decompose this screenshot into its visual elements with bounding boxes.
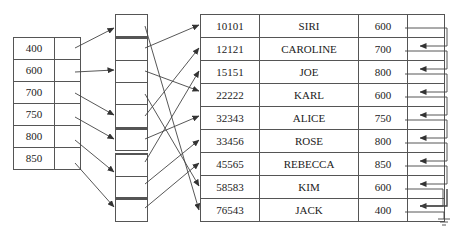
arrow — [145, 140, 199, 184]
index-row: 700 — [14, 82, 81, 104]
record-pointer-cell — [408, 153, 445, 176]
record-id: 33456 — [201, 130, 260, 153]
bucket-block — [115, 14, 148, 37]
record-name: ALICE — [260, 107, 359, 130]
salary-index-table: 400 600 700 750 800 850 — [13, 37, 81, 170]
record-id: 32343 — [201, 107, 260, 130]
bucket-block — [115, 128, 148, 151]
index-value: 800 — [14, 126, 55, 148]
bucket-cell — [116, 61, 147, 83]
record-pointer-cell — [408, 107, 445, 130]
index-pointer-cell — [55, 148, 81, 170]
record-name: KARL — [260, 84, 359, 107]
record-row: 15151JOE800 — [201, 61, 445, 84]
index-value: 750 — [14, 104, 55, 126]
record-name: JOE — [260, 61, 359, 84]
record-id: 22222 — [201, 84, 260, 107]
record-row: 33456ROSE800 — [201, 130, 445, 153]
record-salary: 400 — [359, 199, 408, 222]
record-salary: 600 — [359, 84, 408, 107]
record-salary: 850 — [359, 153, 408, 176]
bucket-to-record-arrows — [145, 25, 199, 210]
index-row: 750 — [14, 104, 81, 126]
bucket-cell — [116, 177, 147, 199]
employee-records-table: 10101SIRI600 12121CAROLINE700 15151JOE80… — [200, 14, 445, 222]
record-pointer-cell — [408, 176, 445, 199]
record-pointer-cell — [408, 15, 445, 38]
arrow — [145, 25, 199, 48]
record-row: 12121CAROLINE700 — [201, 38, 445, 61]
index-row: 800 — [14, 126, 81, 148]
bucket-cell — [116, 155, 147, 177]
bucket-cell — [116, 130, 147, 152]
record-salary: 700 — [359, 38, 408, 61]
record-row: 76543JACK400 — [201, 199, 445, 222]
arrow — [145, 26, 199, 210]
record-pointer-cell — [408, 61, 445, 84]
bucket-block — [115, 153, 148, 198]
index-row: 850 — [14, 148, 81, 170]
record-row: 10101SIRI600 — [201, 15, 445, 38]
record-pointer-cell — [408, 199, 445, 222]
record-row: 32343ALICE750 — [201, 107, 445, 130]
arrow — [145, 71, 199, 91]
bucket-cell — [116, 105, 147, 127]
bucket-block — [115, 198, 148, 222]
record-name: JACK — [260, 199, 359, 222]
record-row: 58583KIM600 — [201, 176, 445, 199]
record-id: 10101 — [201, 15, 260, 38]
arrow — [145, 48, 199, 116]
index-row: 400 — [14, 38, 81, 60]
record-salary: 600 — [359, 15, 408, 38]
arrow — [145, 163, 199, 208]
record-id: 12121 — [201, 38, 260, 61]
record-pointer-cell — [408, 130, 445, 153]
index-pointer-cell — [55, 38, 81, 60]
record-id: 45565 — [201, 153, 260, 176]
record-salary: 600 — [359, 176, 408, 199]
record-name: CAROLINE — [260, 38, 359, 61]
arrow — [145, 116, 199, 139]
record-row: 22222KARL600 — [201, 84, 445, 107]
index-value: 400 — [14, 38, 55, 60]
index-value: 850 — [14, 148, 55, 170]
index-pointer-cell — [55, 104, 81, 126]
bucket-cell — [116, 200, 147, 222]
record-pointer-cell — [408, 38, 445, 61]
arrow — [145, 94, 199, 186]
record-name: SIRI — [260, 15, 359, 38]
bucket-block — [115, 37, 148, 128]
index-pointer-cell — [55, 60, 81, 82]
record-row: 45565REBECCA850 — [201, 153, 445, 176]
bucket-cell — [116, 83, 147, 105]
record-name: ROSE — [260, 130, 359, 153]
record-name: KIM — [260, 176, 359, 199]
record-name: REBECCA — [260, 153, 359, 176]
record-salary: 800 — [359, 61, 408, 84]
index-value: 600 — [14, 60, 55, 82]
bucket-cell — [116, 15, 147, 37]
record-pointer-cell — [408, 84, 445, 107]
index-value: 700 — [14, 82, 55, 104]
record-id: 15151 — [201, 61, 260, 84]
record-salary: 750 — [359, 107, 408, 130]
record-id: 58583 — [201, 176, 260, 199]
record-id: 76543 — [201, 199, 260, 222]
index-pointer-cell — [55, 82, 81, 104]
bucket-cell — [116, 39, 147, 61]
index-row: 600 — [14, 60, 81, 82]
index-pointer-cell — [55, 126, 81, 148]
arrow — [145, 71, 199, 162]
record-salary: 800 — [359, 130, 408, 153]
